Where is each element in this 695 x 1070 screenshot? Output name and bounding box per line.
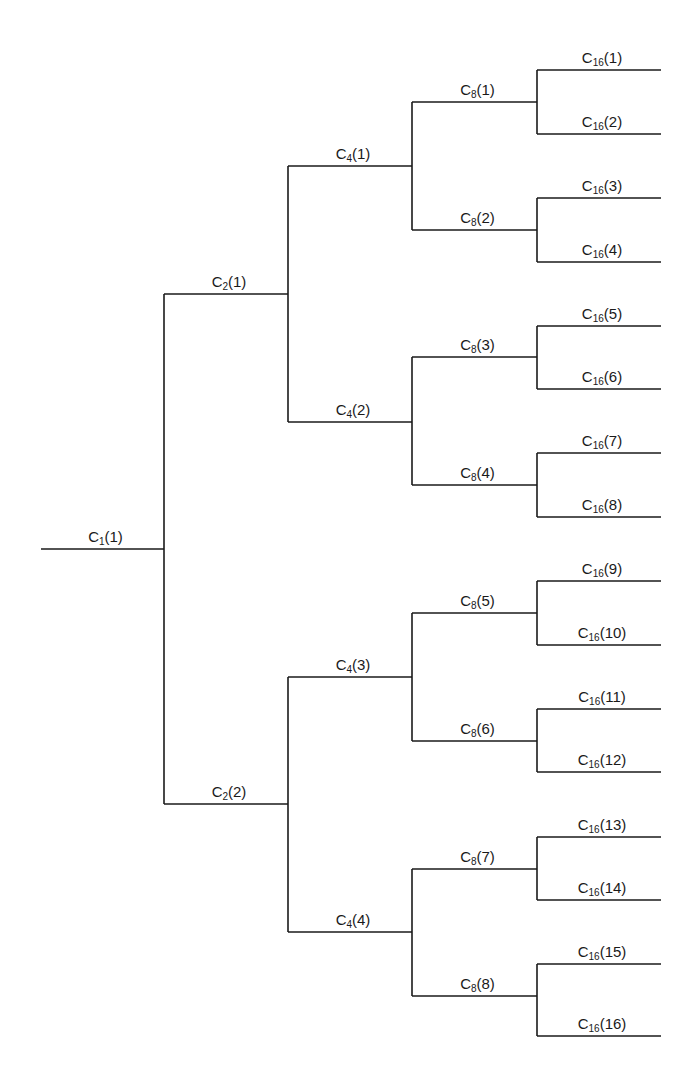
node-label-base: C bbox=[582, 177, 593, 194]
node-label-index: (8) bbox=[477, 975, 495, 992]
binary-tree-diagram: C1(1)C2(1)C2(2)C4(1)C4(2)C4(3)C4(4)C8(1)… bbox=[0, 0, 695, 1070]
node-label-index: (3) bbox=[604, 177, 622, 194]
node-label-base: C bbox=[212, 783, 223, 800]
node-label-c8-2: C8(2) bbox=[460, 209, 495, 228]
node-label-base: C bbox=[460, 336, 471, 353]
node-label-base: C bbox=[460, 464, 471, 481]
node-label-c16-10: C16(10) bbox=[578, 624, 627, 643]
node-label-c16-14: C16(14) bbox=[578, 879, 627, 898]
node-label-c16-15: C16(15) bbox=[578, 943, 627, 962]
node-label-subscript: 16 bbox=[589, 759, 601, 770]
node-label-base: C bbox=[460, 848, 471, 865]
node-label-index: (4) bbox=[604, 241, 622, 258]
node-label-c16-4: C16(4) bbox=[582, 241, 622, 260]
node-label-c2-2: C2(2) bbox=[212, 783, 247, 802]
node-label-subscript: 16 bbox=[589, 887, 601, 898]
node-label-c1-1: C1(1) bbox=[88, 528, 123, 547]
node-label-subscript: 16 bbox=[593, 313, 605, 324]
node-label-base: C bbox=[336, 401, 347, 418]
node-label-c16-8: C16(8) bbox=[582, 496, 622, 515]
node-label-c8-5: C8(5) bbox=[460, 592, 495, 611]
node-label-index: (5) bbox=[477, 592, 495, 609]
node-label-c4-3: C4(3) bbox=[336, 656, 371, 675]
node-label-index: (6) bbox=[604, 368, 622, 385]
node-label-c16-1: C16(1) bbox=[582, 49, 622, 68]
node-label-base: C bbox=[578, 688, 589, 705]
node-label-index: (2) bbox=[352, 401, 370, 418]
node-label-base: C bbox=[88, 528, 99, 545]
node-label-index: (3) bbox=[477, 336, 495, 353]
node-label-base: C bbox=[336, 911, 347, 928]
node-label-c8-4: C8(4) bbox=[460, 464, 495, 483]
node-label-subscript: 16 bbox=[593, 185, 605, 196]
node-label-index: (2) bbox=[477, 209, 495, 226]
node-label-index: (16) bbox=[600, 1015, 627, 1032]
node-label-c16-12: C16(12) bbox=[578, 751, 627, 770]
node-label-subscript: 16 bbox=[589, 951, 601, 962]
node-label-index: (13) bbox=[600, 816, 627, 833]
node-label-subscript: 16 bbox=[589, 824, 601, 835]
node-label-subscript: 16 bbox=[593, 568, 605, 579]
node-label-index: (8) bbox=[604, 496, 622, 513]
node-label-index: (4) bbox=[477, 464, 495, 481]
node-label-base: C bbox=[578, 1015, 589, 1032]
tree-edges bbox=[41, 70, 661, 1036]
node-label-subscript: 16 bbox=[593, 121, 605, 132]
node-label-base: C bbox=[582, 432, 593, 449]
node-label-base: C bbox=[578, 879, 589, 896]
node-label-base: C bbox=[460, 209, 471, 226]
node-label-c16-16: C16(16) bbox=[578, 1015, 627, 1034]
node-label-index: (4) bbox=[352, 911, 370, 928]
node-label-c8-8: C8(8) bbox=[460, 975, 495, 994]
node-label-subscript: 16 bbox=[589, 632, 601, 643]
node-label-base: C bbox=[336, 656, 347, 673]
node-label-base: C bbox=[460, 975, 471, 992]
node-label-base: C bbox=[578, 751, 589, 768]
node-label-c16-7: C16(7) bbox=[582, 432, 622, 451]
node-label-base: C bbox=[460, 720, 471, 737]
node-label-c16-11: C16(11) bbox=[578, 688, 626, 707]
node-label-c16-3: C16(3) bbox=[582, 177, 622, 196]
node-label-base: C bbox=[460, 81, 471, 98]
node-label-c4-4: C4(4) bbox=[336, 911, 371, 930]
node-label-index: (1) bbox=[228, 273, 246, 290]
node-label-base: C bbox=[582, 49, 593, 66]
node-label-index: (14) bbox=[600, 879, 627, 896]
node-label-base: C bbox=[582, 113, 593, 130]
node-label-base: C bbox=[578, 816, 589, 833]
node-label-c16-13: C16(13) bbox=[578, 816, 627, 835]
node-label-index: (12) bbox=[600, 751, 627, 768]
node-label-base: C bbox=[212, 273, 223, 290]
node-label-subscript: 16 bbox=[589, 1023, 601, 1034]
node-label-index: (9) bbox=[604, 560, 622, 577]
node-label-base: C bbox=[582, 496, 593, 513]
node-label-c16-9: C16(9) bbox=[582, 560, 622, 579]
node-label-index: (6) bbox=[477, 720, 495, 737]
node-label-index: (7) bbox=[477, 848, 495, 865]
node-label-index: (5) bbox=[604, 305, 622, 322]
node-label-c8-3: C8(3) bbox=[460, 336, 495, 355]
node-label-c8-7: C8(7) bbox=[460, 848, 495, 867]
node-label-index: (1) bbox=[604, 49, 622, 66]
node-label-index: (1) bbox=[352, 145, 370, 162]
node-label-index: (7) bbox=[604, 432, 622, 449]
node-label-subscript: 16 bbox=[593, 376, 605, 387]
node-label-c16-5: C16(5) bbox=[582, 305, 622, 324]
tree-labels: C1(1)C2(1)C2(2)C4(1)C4(2)C4(3)C4(4)C8(1)… bbox=[88, 49, 626, 1034]
node-label-c2-1: C2(1) bbox=[212, 273, 247, 292]
node-label-subscript: 16 bbox=[589, 696, 601, 707]
node-label-base: C bbox=[582, 368, 593, 385]
node-label-base: C bbox=[582, 305, 593, 322]
node-label-base: C bbox=[336, 145, 347, 162]
node-label-index: (11) bbox=[600, 688, 626, 705]
node-label-index: (15) bbox=[600, 943, 627, 960]
node-label-index: (10) bbox=[600, 624, 627, 641]
node-label-subscript: 16 bbox=[593, 57, 605, 68]
node-label-c4-2: C4(2) bbox=[336, 401, 371, 420]
node-label-base: C bbox=[578, 943, 589, 960]
node-label-base: C bbox=[460, 592, 471, 609]
node-label-index: (3) bbox=[352, 656, 370, 673]
node-label-base: C bbox=[578, 624, 589, 641]
node-label-c16-2: C16(2) bbox=[582, 113, 622, 132]
node-label-subscript: 16 bbox=[593, 249, 605, 260]
